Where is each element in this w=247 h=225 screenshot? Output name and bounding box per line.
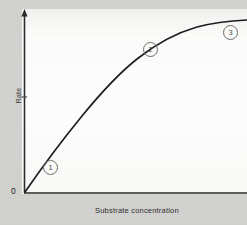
x-axis-label: Substrate concentration (95, 206, 179, 215)
rate-curve (25, 20, 247, 192)
y-axis-label: Rate (15, 76, 22, 116)
y-axis-arrowhead-icon (21, 9, 27, 17)
origin-label: 0 (11, 186, 16, 196)
enzyme-kinetics-figure: Rate Substrate concentration 0 1 2 3 (0, 0, 247, 225)
annotation-marker-2: 2 (143, 42, 158, 57)
annotation-marker-1: 1 (43, 160, 58, 175)
chart-canvas (0, 0, 247, 225)
annotation-marker-3: 3 (223, 25, 238, 40)
